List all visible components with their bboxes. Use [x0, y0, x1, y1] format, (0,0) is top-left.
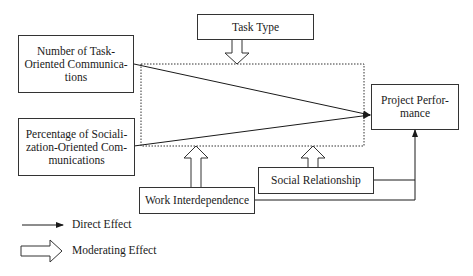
node-label: Task Type [232, 21, 279, 34]
node-project-performance: Project Perfor- mance [371, 84, 459, 130]
node-label: Social Relationship [271, 174, 361, 187]
node-label-line: Project Perfor- [381, 94, 449, 107]
node-label-line: Oriented Communica- [24, 58, 127, 71]
node-task-oriented-communications: Number of Task- Oriented Communica- tion… [18, 35, 134, 93]
moderating-arrow-relationship [301, 146, 325, 167]
node-socialization-oriented-communications: Percentage of Sociali- zation-Oriented C… [18, 118, 135, 176]
node-label-line: tions [65, 71, 87, 84]
node-label-line: Percentage of Sociali- [26, 128, 128, 141]
node-task-type: Task Type [197, 14, 314, 40]
moderating-arrow-task-type [225, 40, 249, 64]
node-label-line: munications [48, 154, 104, 167]
node-social-relationship: Social Relationship [258, 167, 374, 194]
node-label-line: Number of Task- [37, 45, 115, 58]
node-label-line: mance [400, 107, 430, 120]
legend-direct-label: Direct Effect [72, 218, 132, 230]
node-label: Work Interdependence [145, 194, 249, 207]
direct-arrow-social [134, 115, 370, 146]
node-label-line: zation-Oriented Com- [26, 141, 127, 154]
moderated-region [141, 64, 364, 146]
moderating-arrow-work [184, 146, 208, 187]
direct-arrow-task [134, 64, 370, 115]
legend-moderating-label: Moderating Effect [72, 244, 156, 256]
node-work-interdependence: Work Interdependence [139, 187, 255, 214]
legend-moderating-icon [21, 240, 62, 262]
